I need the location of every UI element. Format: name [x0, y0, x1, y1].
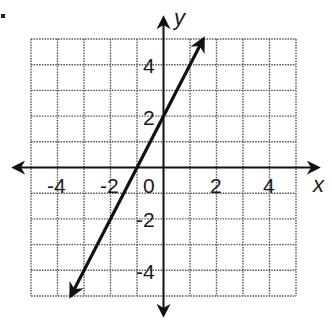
origin-label: 0: [143, 174, 155, 197]
x-tick-label: 2: [210, 174, 222, 197]
x-tick-label: 4: [263, 174, 275, 197]
x-tick-label: -4: [47, 174, 66, 197]
coordinate-plane: -4 -2 0 2 4 4 2 -2 -4 x y: [0, 0, 332, 322]
y-tick-label: 2: [143, 106, 155, 129]
y-axis-label: y: [172, 5, 187, 30]
y-tick-label: -4: [136, 260, 155, 283]
x-tick-label: -2: [100, 174, 119, 197]
stray-dot: [1, 14, 5, 18]
y-tick-label: 4: [143, 54, 155, 77]
x-axis-label: x: [312, 172, 325, 197]
y-tick-label: -2: [136, 208, 155, 231]
